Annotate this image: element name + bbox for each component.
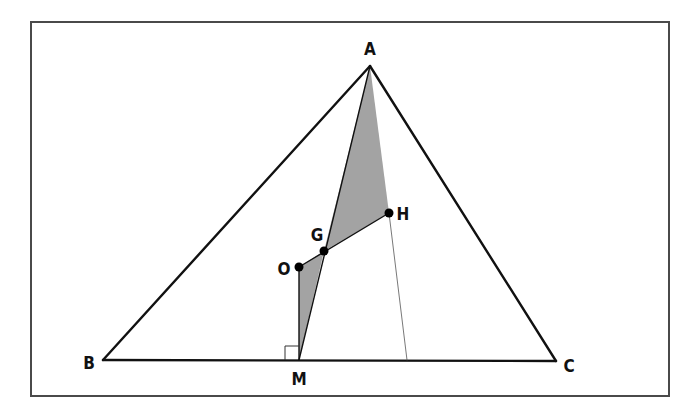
point-O-dot <box>295 263 304 272</box>
label-H: H <box>397 204 410 224</box>
label-C: C <box>563 356 574 376</box>
segment-BC <box>103 360 556 361</box>
label-G: G <box>311 225 324 245</box>
label-M: M <box>291 369 306 389</box>
right-angle-square <box>285 346 299 360</box>
point-G-dot <box>320 247 329 256</box>
label-A: A <box>364 39 376 59</box>
label-O: O <box>278 259 291 279</box>
segment-AB <box>103 66 370 360</box>
triangle-AGH <box>324 66 389 251</box>
label-B: B <box>83 353 95 373</box>
point-H-dot <box>385 209 394 218</box>
segments <box>103 66 556 361</box>
geometry-diagram: A B C M O G H <box>0 0 696 415</box>
right-angle-marker <box>285 346 299 360</box>
segment-HD <box>389 213 407 360</box>
shaded-regions <box>299 66 389 360</box>
